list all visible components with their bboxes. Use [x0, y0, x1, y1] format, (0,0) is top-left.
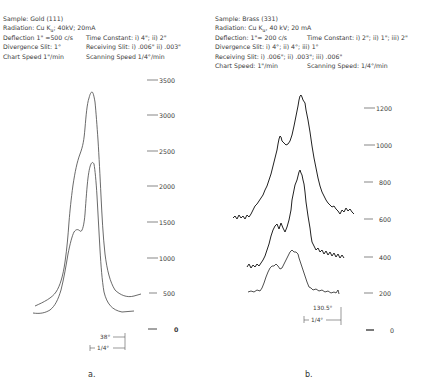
curve-a-ii	[33, 163, 134, 314]
tick-label: 600	[379, 216, 391, 223]
scale-width-label: 1/4°	[97, 345, 109, 351]
tick-label: 0	[174, 326, 179, 333]
panel-b-y-axis: 1200 1000 800 600 400 200 0	[364, 105, 394, 334]
tick-label: 1200	[376, 105, 392, 112]
tick-label: 800	[379, 179, 391, 186]
tick-3500: 3500	[147, 77, 175, 84]
scale-angle-label: 130.5°	[313, 305, 333, 311]
tick-500: 500	[149, 290, 175, 297]
tick-label: 1000	[159, 255, 175, 262]
panel-a-chart	[33, 92, 141, 313]
tick-3000: 3000	[147, 112, 175, 119]
tick-600: 600	[364, 216, 391, 223]
tick-label: 500	[163, 290, 175, 297]
tick-2500: 2500	[147, 148, 175, 155]
panel-a-y-axis: 3500 3000 2500 2000 1500 1000 500 0	[147, 77, 179, 333]
tick-label: 1000	[376, 142, 392, 149]
diffractogram-figure: 3500 3000 2500 2000 1500 1000 500 0 38° …	[0, 0, 427, 386]
curve-b-ii	[247, 170, 344, 268]
curve-a-i	[35, 92, 141, 306]
panel-label-a: a.	[88, 370, 95, 379]
tick-label: 400	[379, 254, 391, 261]
tick-0: 0	[148, 326, 179, 333]
tick-label: 2500	[159, 148, 175, 155]
tick-400: 400	[364, 254, 391, 261]
tick-0: 0	[366, 327, 394, 334]
tick-1000: 1000	[147, 255, 175, 262]
tick-label: 3000	[159, 112, 175, 119]
tick-label: 2000	[159, 183, 175, 190]
tick-label: 1500	[159, 219, 175, 226]
panel-label-b: b.	[305, 370, 313, 379]
tick-2000: 2000	[147, 183, 175, 190]
scale-angle-label: 38°	[100, 334, 110, 340]
scale-width-label: 1/4°	[311, 317, 323, 323]
tick-label: 200	[379, 290, 391, 297]
tick-800: 800	[364, 179, 391, 186]
tick-1200: 1200	[364, 105, 392, 112]
tick-1000: 1000	[364, 142, 392, 149]
curve-b-i	[233, 95, 354, 219]
curve-b-iii	[248, 250, 339, 294]
panel-b-chart	[233, 95, 354, 294]
tick-label: 0	[390, 327, 394, 334]
tick-200: 200	[364, 290, 391, 297]
tick-1500: 1500	[147, 219, 175, 226]
tick-label: 3500	[159, 77, 175, 84]
